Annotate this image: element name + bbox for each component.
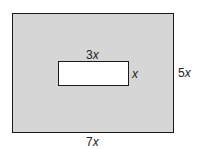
- inner-height-label: x: [132, 68, 138, 80]
- inner-width-label: 3x: [86, 49, 99, 61]
- outer-height-label: 5x: [178, 67, 191, 79]
- outer-width-label: 7x: [86, 136, 99, 148]
- inner-rectangle: [58, 61, 129, 86]
